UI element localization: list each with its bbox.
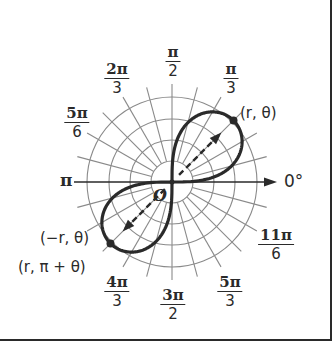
grid-spoke (123, 97, 162, 164)
fraction-denominator: 3 (226, 79, 236, 96)
fraction-denominator: 6 (72, 123, 82, 140)
grid-spoke (183, 200, 222, 267)
fraction-numerator: 11π (258, 228, 294, 245)
neg-r-theta-point (106, 240, 114, 248)
r-theta-point (230, 116, 238, 124)
fraction-denominator: 3 (112, 79, 122, 96)
fraction-numerator: π (166, 45, 181, 62)
axis-arrow-icon (264, 178, 277, 187)
angle-label-11pi-over-6: 11π6 (258, 228, 294, 262)
neg-r-theta-label: (−r, θ) (40, 231, 89, 246)
diagram-frame: π 0° O (r, θ) (−r, θ) (r, π + θ) π22π3π3… (0, 0, 333, 347)
frame-border-right (330, 0, 332, 341)
r-theta-label: (r, θ) (240, 106, 277, 121)
grid-spoke (87, 133, 154, 172)
pi-axis-label: π (60, 172, 72, 189)
origin-label: O (153, 188, 167, 204)
frame-border-bottom (0, 339, 332, 341)
angle-label-pi-over-3: π3 (224, 62, 239, 96)
angle-label-3pi-over-2: 3π2 (160, 288, 185, 322)
angle-label-2pi-over-3: 2π3 (104, 62, 129, 96)
angle-label-pi-over-2: π2 (166, 45, 181, 79)
fraction-numerator: 3π (160, 288, 185, 305)
angle-label-5pi-over-6: 5π6 (64, 106, 89, 140)
fraction-denominator: 3 (112, 292, 122, 309)
r-pi-plus-theta-label: (r, π + θ) (18, 260, 86, 275)
fraction-denominator: 6 (271, 245, 281, 262)
fraction-numerator: 4π (104, 275, 129, 292)
fraction-numerator: 5π (217, 275, 242, 292)
fraction-numerator: 2π (104, 62, 129, 79)
fraction-denominator: 2 (168, 305, 178, 322)
zero-degree-label: 0° (284, 173, 303, 190)
grid-spoke (187, 197, 241, 251)
fraction-denominator: 3 (225, 292, 235, 309)
origin-point (170, 180, 175, 185)
fraction-denominator: 2 (168, 62, 178, 79)
angle-label-5pi-over-3: 5π3 (217, 275, 242, 309)
fraction-numerator: π (224, 62, 239, 79)
grid-spoke (103, 113, 157, 167)
grid-spoke (190, 193, 257, 232)
angle-label-4pi-over-3: 4π3 (104, 275, 129, 309)
fraction-numerator: 5π (64, 106, 89, 123)
